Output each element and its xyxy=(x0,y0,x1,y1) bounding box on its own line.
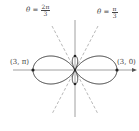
theta-symbol: θ xyxy=(97,8,101,16)
axis-arrow-icon xyxy=(132,68,137,72)
point-bottom-inner-loop xyxy=(74,83,77,86)
fraction-denominator: 3 xyxy=(44,11,48,17)
point-3-0 xyxy=(115,68,118,71)
point-3-pi xyxy=(31,68,34,71)
origin-point xyxy=(74,69,76,71)
point-top-inner-loop xyxy=(74,55,77,58)
fraction: 2π 3 xyxy=(41,4,51,17)
equals-sign: = xyxy=(32,6,38,14)
fraction-denominator: 3 xyxy=(113,13,117,19)
label-point-3-0: (3, 0) xyxy=(117,59,136,66)
theta-symbol: θ xyxy=(26,6,30,14)
label-theta-pi-over-3: θ = π 3 xyxy=(97,6,118,19)
fraction: π 3 xyxy=(112,6,118,19)
label-theta-2pi-over-3: θ = 2π 3 xyxy=(26,4,50,17)
label-point-3-pi: (3, π) xyxy=(10,59,29,66)
equals-sign: = xyxy=(103,8,109,16)
